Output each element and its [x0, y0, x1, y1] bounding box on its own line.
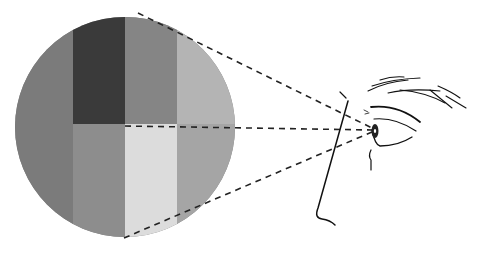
nose-line	[317, 101, 348, 225]
cheek-line	[370, 150, 372, 170]
tile-top-dark	[73, 10, 125, 124]
eyelid-crease	[374, 119, 416, 131]
eye-icon	[364, 107, 420, 146]
eyebrow-icon	[368, 77, 466, 108]
tile-far-left	[15, 10, 73, 245]
tile-top-right	[177, 10, 237, 124]
tile-top-mid	[125, 10, 177, 124]
face-profile	[317, 77, 466, 225]
visual-field-diagram	[0, 0, 485, 256]
tile-bottom-left	[73, 124, 125, 244]
upper-eyelid	[371, 107, 420, 122]
tile-bottom-right	[177, 124, 237, 244]
pupil-highlight	[374, 129, 376, 133]
eyelashes	[364, 110, 369, 114]
brow-ridge-mark	[340, 92, 346, 98]
viewed-disc	[0, 0, 250, 256]
tile-bottom-light	[125, 124, 177, 244]
